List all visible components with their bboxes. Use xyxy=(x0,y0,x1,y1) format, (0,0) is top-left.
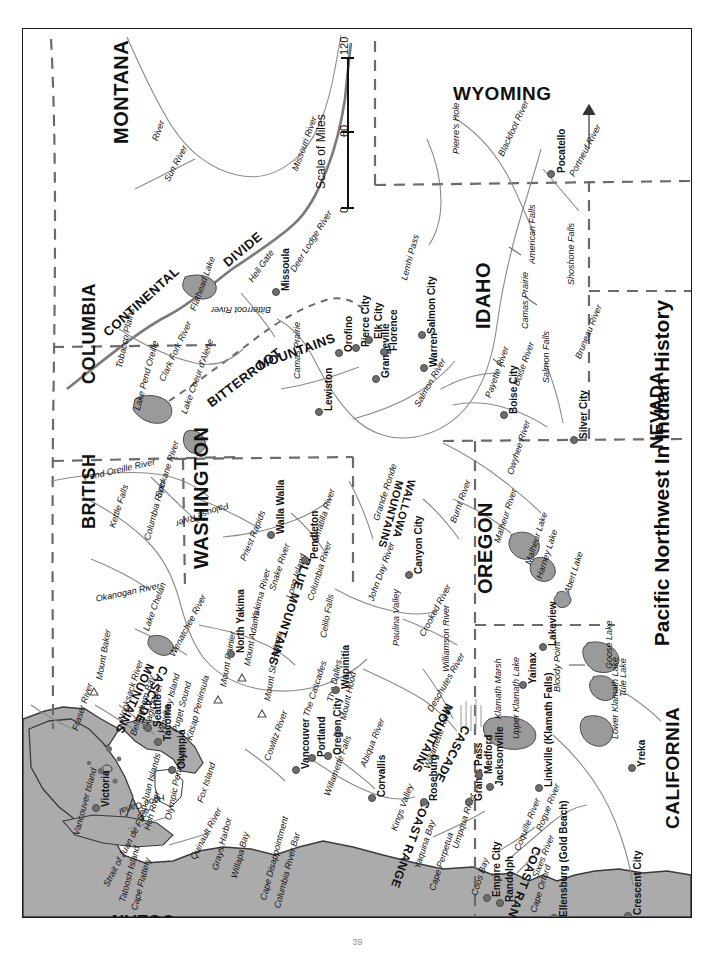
state-label-oregon: OREGON xyxy=(475,502,495,594)
state-label-british: BRITISH xyxy=(80,454,98,530)
city-label-corvallis: Corvallis xyxy=(377,755,387,797)
feature-label-salmon-falls: Salmon Falls xyxy=(542,331,551,383)
city-marker-lakeview xyxy=(539,643,547,651)
city-marker-yainax xyxy=(519,681,527,689)
state-label-idaho: IDAHO xyxy=(473,262,493,329)
feature-label-paulina-valley: Paulina Valley xyxy=(392,589,401,646)
city-marker-jacksonville xyxy=(486,783,494,791)
city-marker-pierce-city xyxy=(352,344,360,352)
city-label-elk-city: Elk City xyxy=(374,302,384,339)
feature-label-lower-klamath-lake: Lower Klamath Lake xyxy=(611,657,620,739)
state-label-washington: WASHINGTON xyxy=(191,427,211,569)
volcano-peak-mount-baker xyxy=(89,687,99,696)
ocean-label-pacific: PACIFIC xyxy=(273,917,343,918)
city-marker-salmon-city xyxy=(418,331,426,339)
city-marker-silver-city xyxy=(570,436,578,444)
city-label-medford: Medford xyxy=(484,735,494,774)
feature-label-camas-prairie: Camas Prairie xyxy=(521,272,530,329)
city-label-wapinitia: Wapinitia xyxy=(341,645,351,689)
map-frame: 120 60 0 Scale of Miles MONTANAWYOMINGUT… xyxy=(22,28,692,918)
scale-tick-0: 0 xyxy=(339,207,350,213)
city-label-florence: Florence xyxy=(389,309,399,351)
river-blackfoot xyxy=(453,117,535,235)
city-marker-canyon-city xyxy=(405,571,413,579)
city-marker-vancouver xyxy=(292,766,300,774)
ocean-label-ocean: OCEAN xyxy=(111,912,175,918)
scale-bar: 120 60 0 Scale of Miles xyxy=(319,53,363,213)
city-label-north-yakima: North Yakima xyxy=(236,589,246,653)
city-label-lakeview: Lakeview xyxy=(548,602,558,646)
city-marker-empire-city xyxy=(483,894,491,902)
city-marker-randolph xyxy=(496,899,504,907)
city-label-jacksonville: Jacksonville xyxy=(495,727,505,786)
city-marker-florence xyxy=(380,348,388,356)
city-label-yainax: Yainax xyxy=(528,652,538,684)
city-label-salmon-city: Salmon City xyxy=(427,276,437,334)
city-marker-medford xyxy=(475,771,483,779)
feature-label-williamson-river: Williamson River xyxy=(442,605,451,672)
feature-label-pierre-s-hole: Pierre's Hole xyxy=(452,103,461,154)
river-pend-oreille xyxy=(51,472,209,497)
city-marker-wapinitia xyxy=(332,686,340,694)
city-label-lewiston: Lewiston xyxy=(324,368,334,411)
city-marker-lewiston xyxy=(315,408,323,416)
feature-label-camas-prairie: Camas Prairie xyxy=(293,322,302,379)
city-marker-victoria xyxy=(92,804,100,812)
city-marker-roseburg xyxy=(420,798,428,806)
map-page: 120 60 0 Scale of Miles MONTANAWYOMINGUT… xyxy=(0,0,715,957)
city-marker-boise-city xyxy=(500,411,508,419)
city-label-portland: Portland xyxy=(317,716,327,757)
city-label-tacoma: Tacoma xyxy=(163,704,173,741)
feature-label-tule-lake: Tule Lake xyxy=(619,658,628,697)
page-number: 39 xyxy=(0,937,715,947)
boundary-columbia-montana xyxy=(53,345,219,347)
island-speck xyxy=(106,746,112,752)
city-marker-walla-walla xyxy=(267,531,275,539)
island-speck xyxy=(117,757,122,762)
city-marker-linkville-klamath-falls- xyxy=(535,784,543,792)
city-label-ellensburg-gold-beach-: Ellensburg (Gold Beach) xyxy=(559,800,569,917)
city-marker-orofino xyxy=(335,349,343,357)
city-label-roseburg: Roseburg xyxy=(429,754,439,801)
city-marker-yreka xyxy=(628,764,636,772)
feature-label-upper-klamath-lake: Upper Klamath Lake xyxy=(512,657,521,739)
river-bitterroot xyxy=(241,293,275,337)
scale-tick-60: 60 xyxy=(339,125,350,137)
state-label-wyoming: WYOMING xyxy=(453,84,552,103)
city-label-canyon-city: Canyon City xyxy=(414,516,424,574)
boundary-canada-us xyxy=(51,39,55,729)
map-title-text: Pacific Northwest In Indian History xyxy=(650,300,674,647)
city-marker-grants-pass xyxy=(465,798,473,806)
river-grande-ronde xyxy=(349,481,373,539)
city-marker-ellensburg-gold-beach- xyxy=(550,914,558,918)
state-label-montana: MONTANA xyxy=(111,40,131,144)
falls-ticks xyxy=(493,247,585,665)
city-label-warren: Warren xyxy=(429,333,439,367)
city-label-pendleton: Pendleton xyxy=(310,511,320,559)
city-marker-pendleton xyxy=(301,556,309,564)
island-speck xyxy=(87,761,91,765)
city-label-silver-city: Silver City xyxy=(579,390,589,439)
scale-tick-120: 120 xyxy=(339,37,350,55)
map-title: Pacific Northwest In Indian History xyxy=(639,29,685,917)
city-marker-tacoma xyxy=(154,738,162,746)
city-label-walla-walla: Walla Walla xyxy=(276,480,286,534)
feature-label-american-falls: American Falls xyxy=(528,204,537,264)
scale-caption: Scale of Miles xyxy=(315,114,327,189)
city-marker-elk-city xyxy=(365,336,373,344)
city-marker-olympia xyxy=(168,766,176,774)
feature-label-bitterroot-river: Bitterroot River xyxy=(211,305,271,314)
feature-label-klamath-marsh: Klamath Marsh xyxy=(494,658,503,719)
city-marker-corvallis xyxy=(368,794,376,802)
island-speck xyxy=(112,778,117,783)
city-label-victoria: Victoria xyxy=(101,771,111,808)
volcano-peak-mount-st-helens xyxy=(257,709,267,718)
city-marker-seattle xyxy=(144,724,152,732)
city-label-randolph: Randolph xyxy=(505,856,515,902)
city-label-linkville-klamath-falls-: Linkville (Klamath Falls) xyxy=(544,673,554,787)
city-marker-north-yakima xyxy=(227,650,235,658)
city-marker-portland xyxy=(308,754,316,762)
city-marker-warren xyxy=(420,364,428,372)
city-marker-grangeville xyxy=(372,375,380,383)
city-marker-missoula xyxy=(272,288,280,296)
